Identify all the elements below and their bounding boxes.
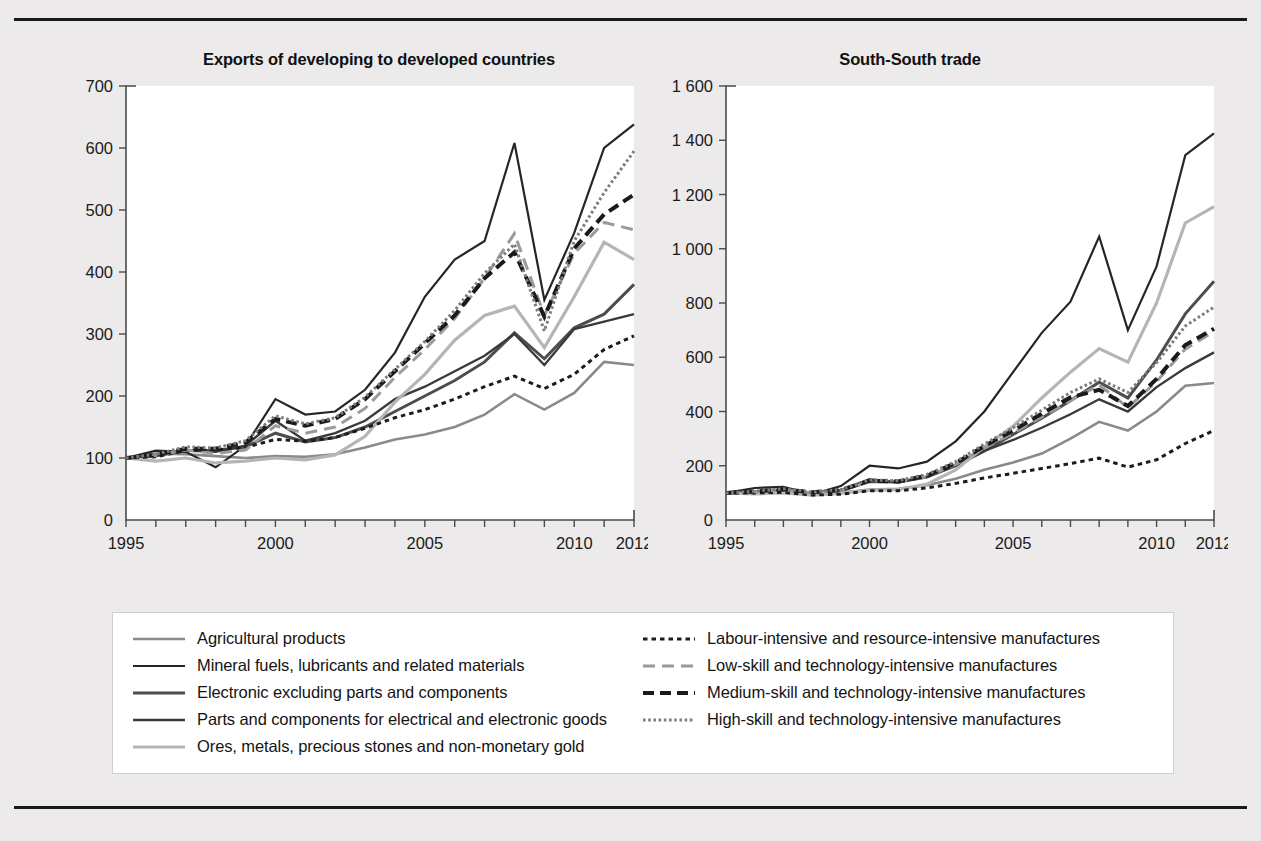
- y-axis-tick-label: 700: [85, 78, 113, 95]
- page-title-left: Exports of developing to developed count…: [48, 42, 648, 69]
- y-axis-tick-label: 1 000: [672, 240, 713, 258]
- legend-item-label: Medium-skill and technology-intensive ma…: [707, 683, 1085, 702]
- top-rule: [14, 18, 1247, 21]
- chart-panel-exports-developing-to-developed: Exports of developing to developed count…: [48, 42, 648, 572]
- legend-item[interactable]: High-skill and technology-intensive manu…: [643, 706, 1173, 733]
- x-axis-tick-label: 1995: [708, 534, 745, 552]
- legend-column-right: Labour-intensive and resource-intensive …: [643, 625, 1173, 733]
- x-axis-tick-label: 2000: [257, 534, 294, 552]
- legend-item[interactable]: Labour-intensive and resource-intensive …: [643, 625, 1173, 652]
- legend-item-label: Parts and components for electrical and …: [197, 710, 607, 729]
- legend-item-label: Mineral fuels, lubricants and related ma…: [197, 656, 524, 675]
- legend-item[interactable]: Low-skill and technology-intensive manuf…: [643, 652, 1173, 679]
- plot-area-right: 02004006008001 0001 2001 4001 6001995200…: [628, 78, 1228, 576]
- x-axis-tick-label: 2010: [556, 534, 593, 552]
- y-axis-tick-label: 300: [85, 325, 113, 343]
- chart-svg: 0100200300400500600700199520002005201020…: [48, 78, 648, 572]
- y-axis-tick-label: 200: [85, 387, 113, 405]
- y-axis-tick-label: 1 200: [672, 186, 713, 204]
- x-axis-tick-label: 2000: [851, 534, 888, 552]
- figure-container: Exports of developing to developed count…: [0, 0, 1261, 841]
- legend-swatch-icon: [643, 713, 695, 727]
- page-title-right: South-South trade: [628, 42, 1228, 69]
- legend-item-label: Agricultural products: [197, 629, 345, 648]
- legend-item[interactable]: Electronic excluding parts and component…: [133, 679, 653, 706]
- y-axis-tick-label: 500: [85, 201, 113, 219]
- y-axis-tick-label: 200: [685, 457, 713, 475]
- bottom-rule: [14, 806, 1247, 809]
- x-axis-tick-label: 2005: [995, 534, 1032, 552]
- legend-item-label: Low-skill and technology-intensive manuf…: [707, 656, 1057, 675]
- legend-item[interactable]: Parts and components for electrical and …: [133, 706, 653, 733]
- y-axis-tick-label: 600: [685, 348, 713, 366]
- y-axis-tick-label: 1 400: [672, 131, 713, 149]
- legend-item-label: High-skill and technology-intensive manu…: [707, 710, 1061, 729]
- legend-swatch-icon: [133, 713, 185, 727]
- x-axis-tick-label: 2010: [1138, 534, 1175, 552]
- chart-panel-south-south-trade: South-South trade 02004006008001 0001 20…: [628, 42, 1228, 572]
- legend-item-label: Electronic excluding parts and component…: [197, 683, 508, 702]
- legend-item-label: Ores, metals, precious stones and non-mo…: [197, 737, 584, 756]
- legend: Agricultural productsMineral fuels, lubr…: [112, 612, 1174, 774]
- plot-area-left: 0100200300400500600700199520002005201020…: [48, 78, 648, 576]
- legend-swatch-icon: [643, 632, 695, 646]
- y-axis-tick-label: 400: [685, 403, 713, 421]
- legend-item[interactable]: Ores, metals, precious stones and non-mo…: [133, 733, 653, 760]
- x-axis-tick-label: 2005: [406, 534, 443, 552]
- x-axis-tick-label: 2012: [1196, 534, 1228, 552]
- y-axis-tick-label: 600: [85, 139, 113, 157]
- legend-item[interactable]: Agricultural products: [133, 625, 653, 652]
- y-axis-tick-label: 400: [85, 263, 113, 281]
- y-axis-tick-label: 0: [104, 511, 113, 529]
- legend-swatch-icon: [133, 632, 185, 646]
- legend-item[interactable]: Mineral fuels, lubricants and related ma…: [133, 652, 653, 679]
- chart-svg: 02004006008001 0001 2001 4001 6001995200…: [628, 78, 1228, 572]
- legend-swatch-icon: [643, 686, 695, 700]
- y-axis-tick-label: 800: [685, 294, 713, 312]
- y-axis-tick-label: 100: [85, 449, 113, 467]
- legend-item-label: Labour-intensive and resource-intensive …: [707, 629, 1100, 648]
- legend-swatch-icon: [643, 659, 695, 673]
- legend-column-left: Agricultural productsMineral fuels, lubr…: [133, 625, 653, 760]
- legend-swatch-icon: [133, 686, 185, 700]
- legend-swatch-icon: [133, 740, 185, 754]
- y-axis-tick-label: 0: [704, 511, 713, 529]
- y-axis-tick-label: 1 600: [672, 78, 713, 95]
- legend-item[interactable]: Medium-skill and technology-intensive ma…: [643, 679, 1173, 706]
- legend-swatch-icon: [133, 659, 185, 673]
- x-axis-tick-label: 1995: [108, 534, 145, 552]
